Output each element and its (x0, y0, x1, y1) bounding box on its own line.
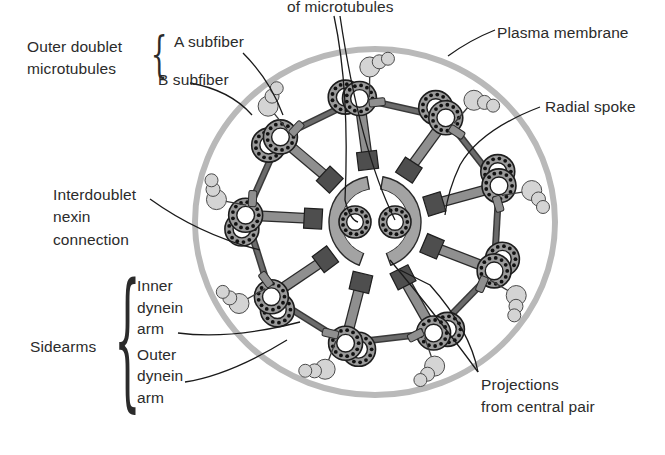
outer-doublet (419, 91, 466, 140)
label-inner-dynein-2: dynein (137, 298, 183, 317)
radial-spoke (292, 148, 343, 193)
spoke-head (357, 150, 379, 170)
leader-plasma-membrane (448, 30, 495, 56)
label-projections-1: Projections (481, 375, 559, 394)
spoke-head (423, 192, 446, 216)
outer-doublet (225, 190, 263, 246)
outer-doublet (328, 80, 385, 115)
radial-spoke (396, 131, 437, 183)
central-tubule-left (339, 206, 371, 238)
label-outer-doublet-2: microtubules (27, 59, 116, 78)
radial-spoke (390, 265, 426, 319)
radial-spoke (423, 191, 484, 217)
radial-spoke (262, 208, 323, 229)
label-inner-dynein-3: arm (137, 319, 164, 338)
label-inner-dynein-1: Inner (137, 276, 173, 295)
radial-spoke (357, 114, 379, 170)
label-central-pair: of microtubules (287, 0, 394, 16)
spoke-head (349, 271, 373, 293)
label-outer-dynein-3: arm (137, 388, 164, 407)
central-tubule-right (379, 206, 411, 238)
central-pair (329, 177, 421, 266)
label-radial-spoke: Radial spoke (545, 97, 636, 116)
label-nexin-2: nexin (53, 207, 91, 226)
label-projections-2: from central pair (481, 397, 595, 416)
label-nexin-3: connection (53, 230, 129, 249)
radial-spoke (284, 246, 338, 287)
label-b-subfiber: B subfiber (158, 70, 229, 89)
radial-spoke (420, 234, 480, 265)
a-subfiber (263, 120, 297, 154)
radial-spoke (349, 271, 373, 327)
outer-dynein-arm (205, 174, 246, 210)
a-subfiber (342, 81, 376, 115)
label-sidearms: Sidearms (30, 337, 96, 356)
label-outer-doublet-1: Outer doublet (27, 37, 122, 56)
label-plasma-membrane: Plasma membrane (497, 23, 629, 42)
outer-doublet (481, 155, 516, 213)
inner-arm-hook (369, 97, 386, 107)
label-outer-dynein-2: dynein (137, 366, 183, 385)
inner-arm-hook (248, 190, 257, 206)
label-nexin-1: Interdoublet (53, 185, 136, 204)
label-outer-dynein-1: Outer (137, 345, 176, 364)
spoke-head (304, 208, 323, 229)
label-a-subfiber: A subfiber (174, 32, 244, 51)
inner-arm-hook (475, 275, 489, 293)
outer-doublet (475, 242, 519, 293)
